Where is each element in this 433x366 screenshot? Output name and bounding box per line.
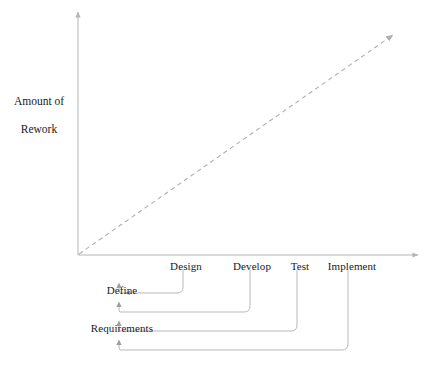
stage-label-line2: Requirements xyxy=(77,322,167,335)
stage-label-define-requirements: Define Requirements xyxy=(77,259,167,359)
stage-label-design: Design xyxy=(156,260,216,273)
stage-label-implement: Implement xyxy=(315,260,389,273)
trend-line-dashed xyxy=(79,35,393,254)
stage-label-develop: Develop xyxy=(220,260,284,273)
y-axis-label-line2: Rework xyxy=(6,122,72,136)
stage-label-line1: Define xyxy=(77,284,167,297)
y-axis-label: Amount of Rework xyxy=(6,80,72,150)
rework-diagram: Amount of Rework Define Requirements Des… xyxy=(0,0,433,366)
y-axis-label-line1: Amount of xyxy=(6,94,72,108)
diagram-canvas xyxy=(0,0,433,366)
